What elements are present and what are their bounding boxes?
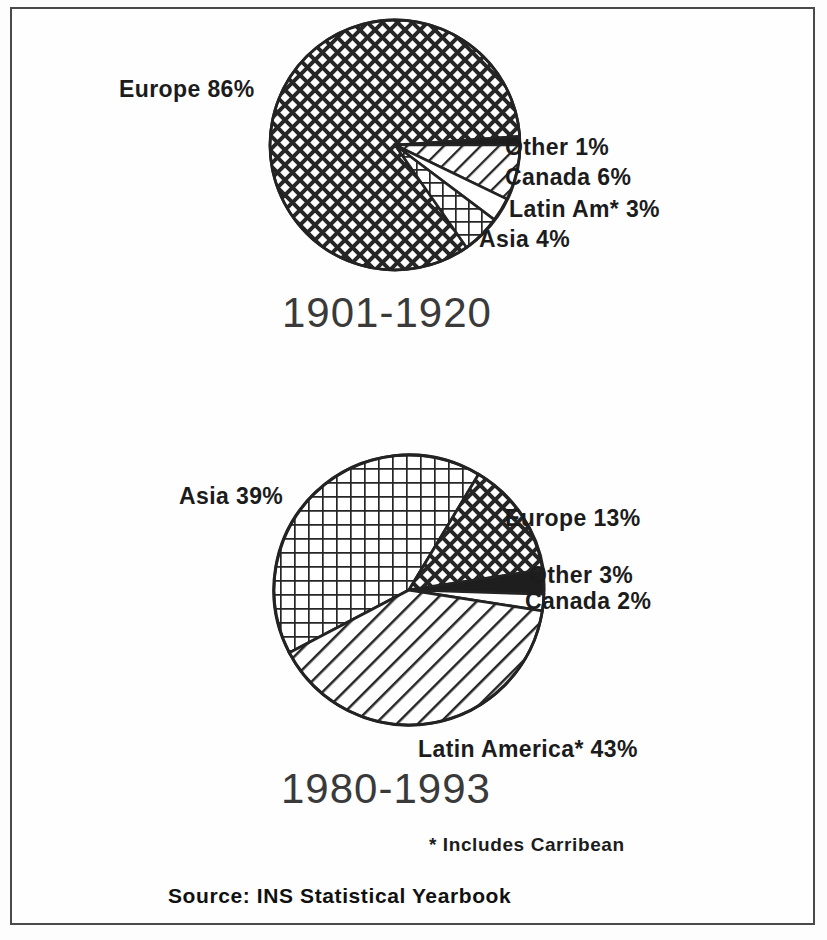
- slice-label-asia-bottom: Asia 39%: [179, 483, 283, 509]
- footnote-includes-carribean: * Includes Carribean: [429, 834, 625, 856]
- slice-label-canada-bottom: Canada 2%: [525, 588, 651, 614]
- period-label-bottom: 1980-1993: [281, 765, 491, 813]
- period-label-top: 1901-1920: [282, 289, 492, 337]
- slice-label-other-bottom: Other 3%: [529, 562, 633, 588]
- slice-label-canada-top: Canada 6%: [505, 164, 631, 190]
- slice-label-latin-top: Latin Am* 3%: [509, 196, 660, 222]
- pie-chart-1901-1920: Europe 86% Other 1% Canada 6% Latin Am* …: [0, 0, 827, 360]
- pie-svg-bottom: [0, 440, 827, 740]
- slice-label-other-top: Other 1%: [505, 134, 609, 160]
- slice-label-europe-top: Europe 86%: [119, 76, 255, 102]
- chart-page: Europe 86% Other 1% Canada 6% Latin Am* …: [0, 0, 827, 940]
- slice-label-latin-bottom: Latin America* 43%: [418, 736, 638, 762]
- pie-svg-top: [0, 0, 827, 300]
- source-line: Source: INS Statistical Yearbook: [168, 884, 511, 908]
- slice-label-asia-top: Asia 4%: [479, 226, 570, 252]
- pie-chart-1980-1993: Asia 39% Europe 13% Other 3% Canada 2% L…: [0, 440, 827, 840]
- slice-label-europe-bottom: Europe 13%: [505, 505, 641, 531]
